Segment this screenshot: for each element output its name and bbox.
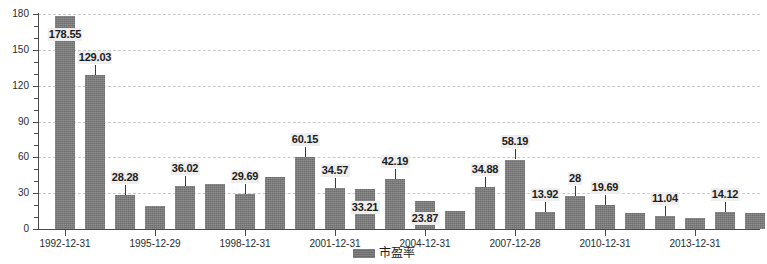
bar-value-label: 28.28 xyxy=(111,171,140,184)
bar xyxy=(565,196,585,229)
bar-value-label: 178.55 xyxy=(48,28,82,41)
bar xyxy=(175,186,195,229)
bar xyxy=(265,177,285,229)
bar-value-label: 14.12 xyxy=(711,188,740,201)
bar xyxy=(505,160,525,230)
bar xyxy=(475,187,495,229)
y-axis-tick-label: 0 xyxy=(23,224,29,234)
bar xyxy=(535,212,555,229)
x-axis-tick xyxy=(515,229,516,236)
bar-value-label: 19.69 xyxy=(591,181,620,194)
value-label-leader xyxy=(575,186,576,196)
x-axis-tick xyxy=(65,229,66,236)
x-axis-tick xyxy=(335,229,336,236)
value-label-leader xyxy=(95,65,96,75)
y-axis-tick-label: 120 xyxy=(12,81,29,91)
value-label-leader xyxy=(725,202,726,212)
bar-value-label: 23.87 xyxy=(411,212,440,225)
bar xyxy=(145,206,165,229)
value-label-leader xyxy=(245,184,246,194)
bar xyxy=(625,213,645,229)
x-axis-tick xyxy=(695,229,696,236)
value-label-leader xyxy=(545,202,546,212)
x-axis-tick xyxy=(245,229,246,236)
y-axis-tick-label: 180 xyxy=(12,9,29,19)
y-axis-tick-label: 60 xyxy=(18,152,29,162)
value-label-leader xyxy=(665,206,666,216)
bar-value-label: 33.21 xyxy=(351,201,380,214)
bar-value-label: 11.04 xyxy=(651,192,679,205)
bar xyxy=(685,218,705,229)
bar-value-label: 60.15 xyxy=(291,133,320,146)
bar xyxy=(295,157,315,229)
legend: 市盈率 xyxy=(0,247,767,260)
value-label-leader xyxy=(605,195,606,205)
value-label-leader xyxy=(335,178,336,188)
bar xyxy=(385,179,405,229)
bar xyxy=(325,188,345,229)
bar-value-label: 36.02 xyxy=(171,162,200,175)
legend-swatch-shiyinglv xyxy=(353,249,375,258)
bar-value-label: 42.19 xyxy=(381,155,410,168)
y-axis-tick-label: 30 xyxy=(18,188,29,198)
x-axis-tick xyxy=(425,229,426,236)
x-axis-tick xyxy=(605,229,606,236)
bar xyxy=(655,216,675,229)
chart-container: 0306090120150180 178.55129.0328.2836.022… xyxy=(0,0,767,264)
bar-value-label: 34.57 xyxy=(321,164,350,177)
bar-value-label: 13.92 xyxy=(531,188,560,201)
bar xyxy=(55,16,75,229)
x-axis-line xyxy=(38,229,760,230)
value-label-leader xyxy=(395,169,396,179)
x-axis-tick xyxy=(155,229,156,236)
legend-label-shiyinglv: 市盈率 xyxy=(379,247,415,260)
bar xyxy=(595,205,615,229)
bar-value-label: 58.19 xyxy=(501,135,530,148)
y-axis-tick xyxy=(33,229,39,230)
y-axis-labels: 0306090120150180 xyxy=(0,0,34,264)
y-axis-tick-label: 90 xyxy=(18,117,29,127)
y-axis-tick-label: 150 xyxy=(12,45,29,55)
bar xyxy=(205,184,225,229)
bar-value-label: 29.69 xyxy=(231,170,260,183)
value-label-leader xyxy=(125,185,126,195)
bar-value-label: 129.03 xyxy=(78,51,112,64)
value-label-leader xyxy=(515,149,516,159)
bar xyxy=(745,213,765,229)
value-label-leader xyxy=(485,177,486,187)
bar xyxy=(715,212,735,229)
bar xyxy=(235,194,255,229)
value-label-leader xyxy=(185,176,186,186)
bar-value-label: 34.88 xyxy=(471,163,500,176)
bar xyxy=(85,75,105,229)
bar xyxy=(115,195,135,229)
value-label-leader xyxy=(305,147,306,157)
bar-value-label: 28 xyxy=(568,172,582,185)
bar xyxy=(445,211,465,229)
